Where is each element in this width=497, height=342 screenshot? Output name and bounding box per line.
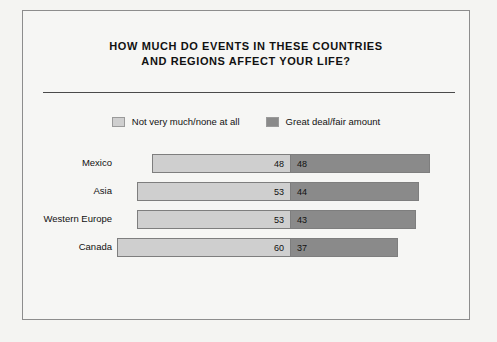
chart-title-line-1: HOW MUCH DO EVENTS IN THESE COUNTRIES (23, 39, 469, 54)
bar-value-great-deal: 37 (297, 243, 307, 254)
legend-label-great-deal: Great deal/fair amount (286, 116, 381, 127)
bar-segment-not-very-much: 48 (152, 154, 291, 173)
bar-segment-not-very-much: 60 (117, 238, 291, 257)
chart-plot-area: Mexico4848Asia5344Western Europe5343Cana… (23, 151, 469, 263)
bar-value-great-deal: 48 (297, 159, 307, 170)
bar-row: Western Europe5343 (23, 207, 469, 235)
bar-value-not-very-much: 53 (274, 187, 284, 198)
legend-swatch-icon-dark (266, 117, 279, 127)
bar-segment-great-deal: 48 (291, 154, 430, 173)
title-divider (43, 92, 455, 93)
bar-value-not-very-much: 48 (274, 159, 284, 170)
bar-row: Asia5344 (23, 179, 469, 207)
legend-item-not-very-much: Not very much/none at all (112, 116, 240, 127)
bar-row: Canada6037 (23, 235, 469, 263)
legend-item-great-deal: Great deal/fair amount (266, 116, 381, 127)
bar-segment-not-very-much: 53 (137, 210, 291, 229)
bar-segment-great-deal: 44 (291, 182, 419, 201)
legend-label-not-very-much: Not very much/none at all (132, 116, 240, 127)
bar-track: 4848 (23, 154, 469, 173)
chart-title-line-2: AND REGIONS AFFECT YOUR LIFE? (23, 54, 469, 69)
bar-track: 5344 (23, 182, 469, 201)
bar-row: Mexico4848 (23, 151, 469, 179)
bar-segment-great-deal: 43 (291, 210, 416, 229)
legend-swatch-icon-light (112, 117, 125, 127)
bar-value-great-deal: 44 (297, 187, 307, 198)
bar-value-not-very-much: 53 (274, 215, 284, 226)
bar-track: 5343 (23, 210, 469, 229)
bar-track: 6037 (23, 238, 469, 257)
bar-segment-not-very-much: 53 (137, 182, 291, 201)
bar-value-great-deal: 43 (297, 215, 307, 226)
chart-legend: Not very much/none at all Great deal/fai… (23, 116, 469, 127)
chart-title: HOW MUCH DO EVENTS IN THESE COUNTRIES AN… (23, 39, 469, 69)
bar-value-not-very-much: 60 (274, 243, 284, 254)
bar-segment-great-deal: 37 (291, 238, 398, 257)
chart-frame: HOW MUCH DO EVENTS IN THESE COUNTRIES AN… (22, 10, 470, 320)
